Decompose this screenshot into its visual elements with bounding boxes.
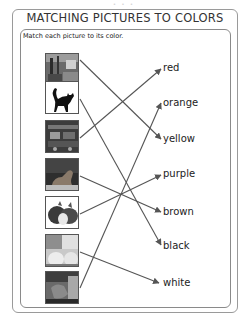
line-fox-to-orange — [80, 103, 161, 288]
matching-lines — [0, 0, 248, 324]
line-cat-to-black — [80, 99, 161, 245]
line-eggs-to-white — [80, 252, 159, 283]
